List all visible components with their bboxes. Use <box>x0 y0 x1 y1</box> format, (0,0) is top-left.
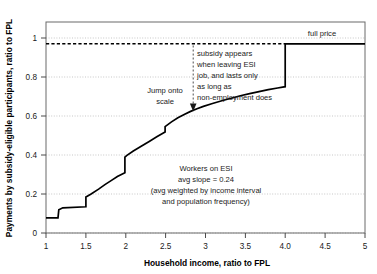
xtick-label-2: 2 <box>124 242 129 251</box>
xtick-label-2.5: 2.5 <box>160 242 172 251</box>
subsidy-note-line-1: subsidy appears <box>197 49 253 58</box>
xtick-label-4: 4.0 <box>280 242 292 251</box>
jump-note-line-1: Jump onto <box>147 86 182 95</box>
ytick-label-0: 0 <box>32 229 37 238</box>
subsidy-note-line-3: job, and lasts only <box>196 71 258 80</box>
xtick-label-1.5: 1.5 <box>80 242 92 251</box>
ytick-label-0.2: 0.2 <box>26 190 38 199</box>
esi-note-line-1: Workers on ESI <box>179 164 232 173</box>
x-axis-title: Household income, ratio to FPL <box>144 258 270 268</box>
xtick-label-1: 1 <box>44 242 49 251</box>
jump-note-line-2: scale <box>156 97 174 106</box>
ytick-label-0.8: 0.8 <box>26 73 38 82</box>
xtick-label-3.5: 3.5 <box>240 242 252 251</box>
chart-figure: 0 0.2 0.4 0.6 0.8 1 1 1.5 2 2.5 3 3.5 4.… <box>0 0 377 274</box>
y-axis-title: Payments by subsidy-eligible participant… <box>4 19 14 237</box>
esi-note-line-2: avg slope = 0.24 <box>178 175 234 184</box>
esi-note-line-3: (avg weighted by income interval <box>151 186 262 195</box>
esi-note-line-4: and population frequency) <box>162 197 250 206</box>
xtick-label-5: 5 <box>363 242 368 251</box>
subsidy-note-line-2: when leaving ESI <box>196 60 256 69</box>
subsidy-note-line-5: non-employment does <box>197 93 272 102</box>
ytick-label-0.4: 0.4 <box>26 151 38 160</box>
xtick-label-3: 3 <box>203 242 208 251</box>
chart-canvas: 0 0.2 0.4 0.6 0.8 1 1 1.5 2 2.5 3 3.5 4.… <box>0 0 377 274</box>
ytick-label-1: 1 <box>32 34 37 43</box>
xtick-label-4.5: 4.5 <box>319 242 331 251</box>
y-axis-ticks <box>41 38 46 233</box>
full-price-label: full price <box>308 29 336 38</box>
subsidy-note-line-4: as long as <box>197 82 232 91</box>
x-axis-ticks <box>46 233 365 238</box>
ytick-label-0.6: 0.6 <box>26 112 38 121</box>
